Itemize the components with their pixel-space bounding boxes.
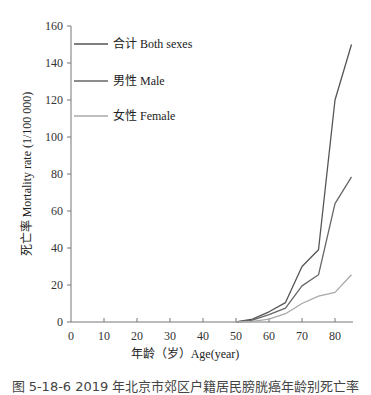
- y-tick-label: 20: [51, 278, 63, 292]
- x-tick-label: 40: [197, 329, 209, 343]
- x-tick-label: 50: [230, 329, 242, 343]
- y-axis-ticks: 020406080100120140160: [45, 19, 71, 329]
- x-tick-label: 20: [131, 329, 143, 343]
- y-tick-label: 100: [45, 130, 63, 144]
- series-line-2: [236, 275, 352, 322]
- x-axis-title: 年龄（岁）Age(year): [131, 346, 240, 361]
- y-tick-label: 80: [51, 167, 63, 181]
- y-tick-label: 0: [57, 315, 63, 329]
- x-tick-label: 10: [98, 329, 110, 343]
- y-axis-title: 死亡率 Mortality rate (1/100 000): [19, 92, 34, 257]
- legend-label: 男性 Male: [113, 74, 165, 88]
- x-tick-label: 60: [263, 329, 275, 343]
- data-series: [236, 45, 352, 323]
- x-tick-label: 70: [296, 329, 308, 343]
- legend: 合计 Both sexes男性 Male女性 Female: [74, 36, 193, 123]
- y-tick-label: 120: [45, 93, 63, 107]
- figure-caption: 图 5-18-6 2019 年北京市郊区户籍居民膀胱癌年龄别死亡率: [0, 376, 371, 395]
- series-line-0: [236, 45, 352, 323]
- y-tick-label: 140: [45, 56, 63, 70]
- x-tick-label: 30: [164, 329, 176, 343]
- x-tick-label: 80: [329, 329, 341, 343]
- y-tick-label: 160: [45, 19, 63, 33]
- legend-label: 合计 Both sexes: [113, 36, 193, 51]
- x-tick-label: 0: [68, 329, 74, 343]
- legend-label: 女性 Female: [113, 108, 175, 123]
- series-line-1: [236, 177, 352, 322]
- y-tick-label: 60: [51, 204, 63, 218]
- y-tick-label: 40: [51, 241, 63, 255]
